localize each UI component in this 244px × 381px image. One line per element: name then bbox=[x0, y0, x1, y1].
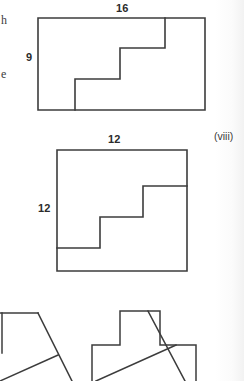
figure1-height-label: 9 bbox=[26, 52, 32, 63]
figure2-outline bbox=[57, 150, 187, 271]
figure2-staircase-path bbox=[57, 186, 187, 248]
figure4-diagonal-a bbox=[148, 311, 185, 381]
figure2-width-label: 12 bbox=[108, 134, 121, 145]
figure1-outline bbox=[38, 18, 205, 110]
figure1-width-label: 16 bbox=[116, 3, 129, 14]
figure4-diagonal-b bbox=[96, 345, 176, 381]
figure-staircase-rectangle bbox=[38, 18, 205, 110]
figure3-diagonal-right bbox=[38, 313, 72, 381]
figure-partial-bottom-left bbox=[0, 313, 72, 381]
geometry-figures-canvas bbox=[0, 0, 244, 381]
figure-staircase-square bbox=[57, 150, 187, 271]
item-label-viii: (viii) bbox=[214, 131, 233, 142]
figure2-height-label: 12 bbox=[38, 203, 51, 214]
worksheet-page: h e 16 9 12 12 (viii) bbox=[0, 0, 244, 381]
figure4-cross-outline bbox=[92, 311, 196, 381]
figure-partial-bottom-right bbox=[92, 311, 196, 381]
figure3-diagonal-lower bbox=[0, 355, 58, 381]
figure1-staircase-path bbox=[75, 18, 165, 110]
